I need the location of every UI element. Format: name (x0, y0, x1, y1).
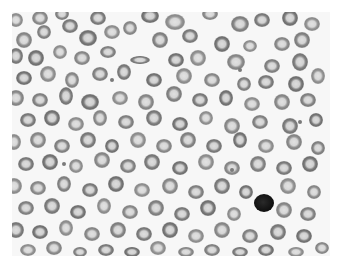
red-blood-cell (42, 154, 58, 170)
red-blood-cell (100, 46, 116, 58)
red-blood-cell (227, 54, 245, 70)
red-blood-cell (44, 198, 60, 214)
red-blood-cell (32, 225, 48, 239)
lymphocyte (254, 194, 274, 212)
red-blood-cell (59, 87, 73, 105)
red-blood-cell (172, 117, 188, 131)
red-blood-cell (274, 37, 290, 51)
red-blood-cell (94, 152, 110, 168)
red-blood-cell (16, 71, 32, 85)
red-blood-cell (146, 73, 162, 87)
micrograph-image (12, 12, 330, 256)
red-blood-cell (16, 32, 32, 48)
red-blood-cell (53, 45, 67, 59)
red-blood-cell (172, 161, 188, 175)
red-blood-cell (150, 241, 166, 255)
red-blood-cell (288, 76, 304, 92)
red-blood-cell (292, 53, 308, 71)
red-blood-cell (244, 97, 260, 111)
red-blood-cell (239, 185, 253, 199)
red-blood-cell (54, 139, 70, 153)
red-blood-cell (134, 183, 150, 197)
red-blood-cell (309, 113, 323, 127)
red-blood-cell (242, 229, 258, 243)
red-blood-cell (165, 14, 185, 30)
red-blood-cell (148, 200, 164, 216)
red-blood-cell (304, 17, 320, 31)
red-blood-cell (276, 202, 292, 218)
white-blood-cell (254, 194, 274, 212)
red-blood-cell (46, 241, 62, 255)
red-blood-cell (188, 185, 204, 199)
red-blood-cell (166, 86, 182, 102)
red-blood-cell (37, 25, 51, 39)
red-blood-cell (81, 94, 99, 110)
red-blood-cell (162, 222, 178, 238)
red-blood-cell (130, 56, 150, 64)
red-blood-cell (20, 113, 36, 127)
red-blood-cell (62, 19, 78, 33)
red-blood-cell (276, 161, 292, 175)
red-blood-cell (104, 25, 120, 39)
red-blood-cell (57, 176, 71, 192)
platelet (230, 168, 234, 172)
red-blood-cell (117, 64, 131, 80)
red-blood-cell (79, 30, 97, 46)
platelet (110, 78, 114, 82)
red-blood-cell (302, 156, 318, 172)
red-blood-cell (294, 32, 310, 48)
red-blood-cell (258, 244, 274, 256)
red-blood-cell (97, 198, 111, 214)
red-blood-cell (300, 207, 316, 221)
red-blood-cell (40, 66, 56, 82)
red-blood-cell (20, 244, 36, 256)
red-blood-cell (70, 205, 86, 219)
red-blood-cell (206, 139, 222, 153)
red-blood-cell (286, 134, 302, 150)
red-blood-cell (138, 94, 154, 110)
red-blood-cell (227, 207, 241, 221)
red-blood-cell (112, 91, 128, 105)
red-blood-cell (18, 201, 34, 215)
red-blood-cell (30, 132, 46, 148)
red-blood-cell (152, 32, 168, 48)
red-blood-cell (264, 59, 280, 73)
red-blood-cell (144, 154, 160, 170)
red-blood-cell (118, 115, 134, 129)
red-blood-cell (168, 53, 184, 67)
red-blood-cell (250, 156, 266, 172)
blood-smear-canvas (12, 12, 330, 256)
red-blood-cell (32, 93, 48, 107)
red-blood-cell (200, 200, 216, 216)
red-blood-cell (296, 229, 312, 243)
red-blood-cell (130, 132, 146, 148)
red-blood-cell (162, 178, 178, 194)
red-blood-cell (108, 176, 124, 192)
red-blood-cell (44, 110, 60, 126)
red-blood-cell (82, 183, 98, 197)
red-blood-cell (214, 222, 230, 238)
red-blood-cell (315, 242, 329, 254)
red-blood-cell (198, 154, 214, 170)
red-blood-cell (146, 110, 162, 126)
red-blood-cell (93, 110, 107, 126)
red-blood-cell (120, 159, 136, 173)
red-blood-cell (174, 207, 190, 221)
red-blood-cell (243, 40, 257, 52)
platelet (298, 120, 302, 124)
red-blood-cell (231, 16, 249, 32)
red-blood-cell (204, 73, 220, 87)
red-blood-cell (190, 50, 206, 66)
red-blood-cell (80, 132, 96, 148)
red-blood-cell (69, 159, 83, 173)
red-blood-cell (258, 75, 274, 89)
red-blood-cell (92, 67, 108, 81)
red-blood-cell (84, 227, 100, 241)
red-blood-cell (105, 139, 119, 153)
red-blood-cell (224, 118, 240, 134)
red-blood-cell (123, 21, 137, 35)
red-blood-cell (98, 244, 114, 256)
red-blood-cell (274, 94, 290, 110)
red-blood-cell (282, 118, 298, 134)
red-blood-cell (59, 220, 73, 236)
